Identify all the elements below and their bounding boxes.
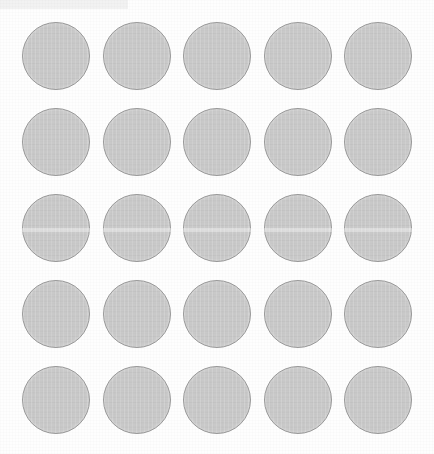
disc-r2c5 xyxy=(344,108,412,176)
disc-r2c2 xyxy=(103,108,171,176)
disc-r5c5 xyxy=(344,366,412,434)
disc-r4c4 xyxy=(264,280,332,348)
scan-sheet xyxy=(0,0,434,454)
disc-r2c1 xyxy=(22,108,90,176)
disc-r1c1 xyxy=(22,22,90,90)
disc-r2c3 xyxy=(183,108,251,176)
disc-r5c1 xyxy=(22,366,90,434)
disc-r1c2 xyxy=(103,22,171,90)
disc-r1c5 xyxy=(344,22,412,90)
disc-r5c3 xyxy=(183,366,251,434)
disc-r3c1 xyxy=(22,194,90,262)
disc-r2c4 xyxy=(264,108,332,176)
disc-r4c2 xyxy=(103,280,171,348)
disc-r3c4 xyxy=(264,194,332,262)
disc-r3c3 xyxy=(183,194,251,262)
disc-r3c2 xyxy=(103,194,171,262)
disc-r1c3 xyxy=(183,22,251,90)
circle-grid xyxy=(0,0,434,454)
disc-r4c1 xyxy=(22,280,90,348)
disc-r5c2 xyxy=(103,366,171,434)
disc-r4c5 xyxy=(344,280,412,348)
disc-r4c3 xyxy=(183,280,251,348)
disc-r1c4 xyxy=(264,22,332,90)
disc-r3c5 xyxy=(344,194,412,262)
disc-r5c4 xyxy=(264,366,332,434)
